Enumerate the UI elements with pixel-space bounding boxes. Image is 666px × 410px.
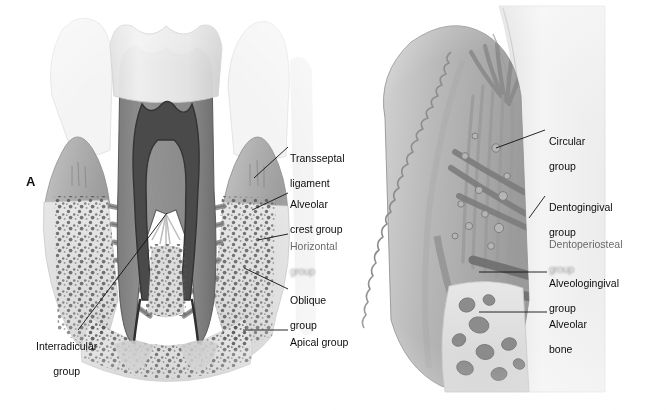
label-interradicular-group: Interradicular group: [36, 328, 97, 378]
anatomical-figure: A: [0, 0, 666, 410]
panel-b-illustration: [333, 0, 666, 410]
panel-letter-a: A: [26, 174, 36, 189]
label-apical-group: Apical group: [290, 324, 348, 349]
label-circular-group: Circular group: [549, 123, 585, 173]
label-alveolar-bone: Alveolar bone: [549, 306, 587, 356]
label-transseptal-ligament: Transseptal ligament: [290, 140, 344, 190]
panel-b-gingival-fibers: B: [333, 0, 666, 410]
label-horizontal-group: Horizontal group: [290, 228, 337, 290]
